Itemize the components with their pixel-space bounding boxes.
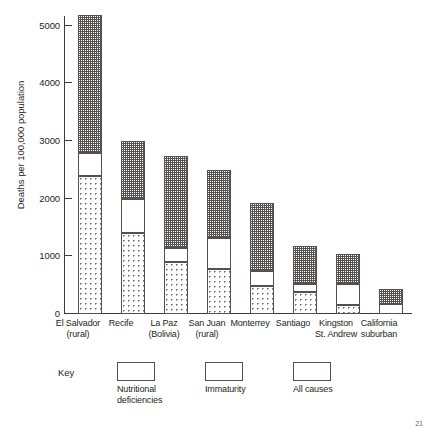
legend-label: Nutritionaldeficiencies [117,384,207,405]
legend-swatch-nutritional-deficiencies [117,362,155,381]
legend-entry: Nutritionaldeficiencies [117,362,207,405]
bar-group [379,289,403,314]
bar-segment-nutritional [164,262,188,314]
bar-segment-all-causes [78,15,102,153]
bar-segment-nutritional [250,286,274,314]
y-tick-label-5000: 5000 [16,21,60,31]
bar-segment-immaturity [336,284,360,305]
bar-segment-immaturity [164,248,188,262]
bar-segment-immaturity [293,284,317,292]
y-tick-label-4000: 4000 [16,78,60,88]
bar-group [336,254,360,314]
bar-group [121,141,145,314]
bar-segment-immaturity [379,304,403,314]
bar-group [293,246,317,314]
legend-entry: All causes [293,362,383,395]
bar-group [164,156,188,314]
bar-group [250,203,274,314]
bar-segment-immaturity [250,271,274,286]
bar-segment-all-causes [164,156,188,248]
bar-segment-immaturity [207,238,231,269]
bar-segment-all-causes [121,141,145,199]
plot-area [64,14,416,314]
bar-segment-all-causes [293,246,317,284]
bar-segment-nutritional [336,305,360,314]
legend-label-line1: Immaturity [205,384,246,394]
legend-entry: Immaturity [205,362,295,395]
legend-swatch-immaturity [205,362,243,381]
bar-segment-all-causes [379,289,403,304]
x-axis-label: Californiasuburban [339,318,419,339]
bar-segment-nutritional [78,176,102,314]
bar-segment-immaturity [121,199,145,234]
legend-label-line1: Nutritional [117,384,156,394]
chart-legend: Key Nutritionaldeficiencies Immaturity A… [0,360,426,420]
bar-segment-nutritional [207,269,231,314]
legend-swatch-all-causes [293,362,331,381]
y-tick-label-1000: 1000 [16,251,60,261]
page-number: 21 [415,420,423,427]
chart-figure: Deaths per 100,000 population 0 1000 200… [0,0,426,428]
y-tick-label-2000: 2000 [16,194,60,204]
bar-segment-all-causes [207,170,231,238]
bar-group [207,170,231,314]
legend-label-line1: All causes [293,384,333,394]
bar-segment-all-causes [250,203,274,271]
legend-label-line2: deficiencies [117,395,207,406]
legend-title: Key [58,368,74,378]
bar-group [78,14,102,314]
x-axis-label-line1: California [361,318,398,328]
legend-label: All causes [293,384,383,395]
x-axis-label-line2: (rural) [167,329,247,340]
y-tick-label-3000: 3000 [16,136,60,146]
bar-segment-nutritional [121,233,145,314]
bar-segment-all-causes [336,254,360,284]
bar-segment-nutritional [293,292,317,314]
x-axis-label-line2: suburban [339,329,419,340]
x-axis-label-line2: (rural) [38,329,118,340]
legend-label: Immaturity [205,384,295,395]
bar-segment-immaturity [78,153,102,176]
